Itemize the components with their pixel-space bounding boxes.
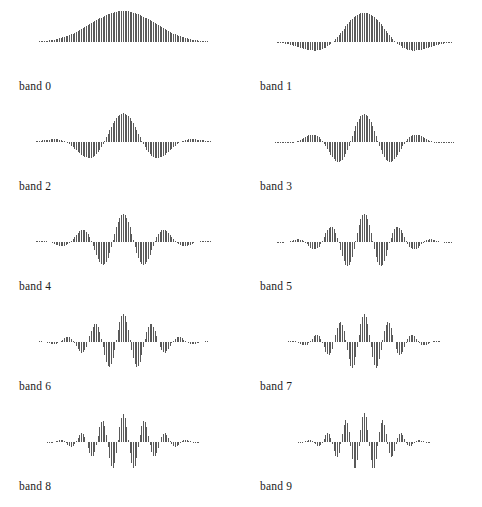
stem-group [297,413,431,469]
band-panel-6: band 6 [0,302,241,402]
band-panel-1: band 1 [241,2,482,102]
stem-plot-band-6 [0,302,241,382]
band-label-3: band 3 [260,180,292,192]
band-label-8: band 8 [19,480,51,492]
stem-svg-band-6 [0,302,241,382]
band-label-2: band 2 [19,180,51,192]
stem-svg-band-2 [0,102,241,182]
stem-svg-band-8 [0,402,241,482]
band-label-0: band 0 [19,80,51,92]
stem-svg-band-1 [241,2,482,82]
band-label-9: band 9 [260,480,292,492]
stem-group [279,314,450,368]
band-label-1: band 1 [260,80,292,92]
band-label-4: band 4 [19,280,51,292]
stem-plot-band-9 [241,402,482,482]
band-panel-7: band 7 [241,302,482,402]
band-panel-5: band 5 [241,202,482,302]
stem-group [38,11,209,42]
band-panel-8: band 8 [0,402,241,502]
band-panel-2: band 2 [0,102,241,202]
stem-group [34,113,212,158]
stem-svg-band-4 [0,202,241,282]
stem-plot-band-5 [241,202,482,282]
stem-group [274,114,455,162]
band-panel-9: band 9 [241,402,482,502]
stem-group [277,13,451,51]
stem-plot-figure: band 0band 1band 2band 3band 4band 5band… [0,0,482,507]
stem-group [48,414,199,468]
stem-svg-band-7 [241,302,482,382]
stem-svg-band-0 [0,2,241,82]
stem-svg-band-9 [241,402,482,482]
band-label-6: band 6 [19,380,51,392]
stem-group [36,314,210,367]
stem-plot-band-1 [241,2,482,82]
stem-plot-band-4 [0,202,241,282]
stem-plot-band-8 [0,402,241,482]
stem-plot-band-7 [241,302,482,382]
band-panel-4: band 4 [0,202,241,302]
stem-svg-band-3 [241,102,482,182]
band-label-5: band 5 [260,280,292,292]
band-panel-0: band 0 [0,2,241,102]
stem-plot-band-0 [0,2,241,82]
stem-plot-band-3 [241,102,482,182]
stem-plot-band-2 [0,102,241,182]
band-panel-3: band 3 [241,102,482,202]
stem-svg-band-5 [241,202,482,282]
stem-group [34,214,212,265]
stem-group [275,214,453,266]
band-label-7: band 7 [260,380,292,392]
